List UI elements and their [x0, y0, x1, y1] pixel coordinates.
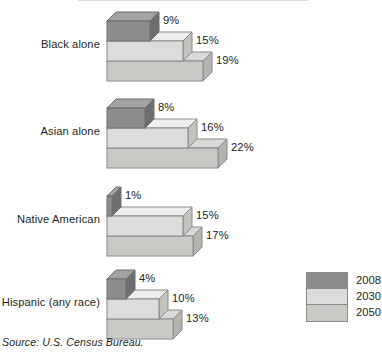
chart-legend: 2008 2030 2050: [306, 272, 382, 324]
legend-swatch-2030: [307, 289, 347, 305]
value-label-2030-asian-alone: 16%: [201, 121, 224, 133]
value-label-2030-black-alone: 15%: [196, 34, 219, 46]
category-label-2: Native American: [0, 213, 100, 225]
value-label-2050-black-alone: 19%: [216, 54, 239, 66]
legend-label-2050: 2050: [356, 304, 381, 320]
category-label-1: Asian alone: [0, 125, 100, 137]
category-label-3: Hispanic (any race): [0, 296, 100, 308]
value-label-2050-asian-alone: 22%: [231, 141, 254, 153]
value-label-2008-black-alone: 9%: [163, 14, 179, 26]
value-label-2030-native-american: 15%: [196, 209, 219, 221]
value-label-2050-hispanic: 13%: [186, 312, 209, 324]
value-label-2008-hispanic: 4%: [139, 272, 155, 284]
legend-swatch-stack: [306, 272, 348, 322]
cropped-title-remnant: [78, 0, 308, 1]
value-label-2008-native-american: 1%: [125, 189, 141, 201]
legend-swatch-2050: [307, 305, 347, 321]
legend-swatch-2008: [307, 273, 347, 289]
category-label-0: Black alone: [0, 38, 100, 50]
chart-canvas: Black alone 19% 15%: [0, 0, 382, 352]
legend-label-2030: 2030: [356, 288, 381, 304]
value-label-2030-hispanic: 10%: [172, 292, 195, 304]
bar-2008-black-alone: [98, 12, 173, 44]
source-note: Source: U.S. Census Bureau.: [2, 336, 144, 348]
value-label-2008-asian-alone: 8%: [158, 101, 174, 113]
value-label-2050-native-american: 17%: [206, 229, 229, 241]
legend-labels: 2008 2030 2050: [356, 272, 381, 320]
legend-label-2008: 2008: [356, 272, 381, 288]
